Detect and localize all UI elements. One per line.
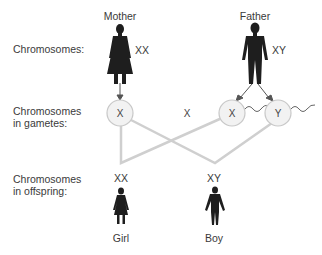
father-chromosomes: XY [272, 44, 286, 56]
row-label-gametes: Chromosomes in gametes: [13, 105, 81, 129]
boy-label: Boy [205, 232, 223, 244]
mother-figure-icon [107, 24, 133, 84]
girl-figure-icon [113, 188, 129, 225]
father-figure-icon [242, 23, 268, 85]
boy-chromosomes: XY [207, 172, 221, 184]
mother-egg-label: X [117, 108, 124, 119]
row-label-offspring: Chromosomes in offspring: [13, 173, 81, 197]
row-label-offspring-line1: Chromosomes [13, 173, 81, 185]
boy-figure-icon [205, 187, 225, 226]
alternative-egg-label: X [184, 108, 191, 119]
row-label-gametes-line2: in gametes: [13, 117, 81, 129]
inheritance-lines [121, 118, 272, 163]
father-sperm-y-label: Y [275, 108, 282, 119]
girl-label: Girl [113, 232, 129, 244]
row-label-gametes-line1: Chromosomes [13, 105, 81, 117]
sperm-y-tail-icon [291, 105, 315, 112]
mother-label: Mother [104, 10, 137, 22]
arrow-down-icon [117, 95, 123, 100]
mother-chromosomes: XX [135, 44, 149, 56]
row-label-chromosomes: Chromosomes: [13, 43, 84, 55]
arrows [117, 83, 273, 101]
sperm-x-tail-icon [245, 105, 268, 111]
row-label-offspring-line2: in offspring: [13, 185, 81, 197]
father-sperm-x-label: X [229, 108, 236, 119]
father-label: Father [240, 10, 270, 22]
girl-chromosomes: XX [114, 172, 128, 184]
